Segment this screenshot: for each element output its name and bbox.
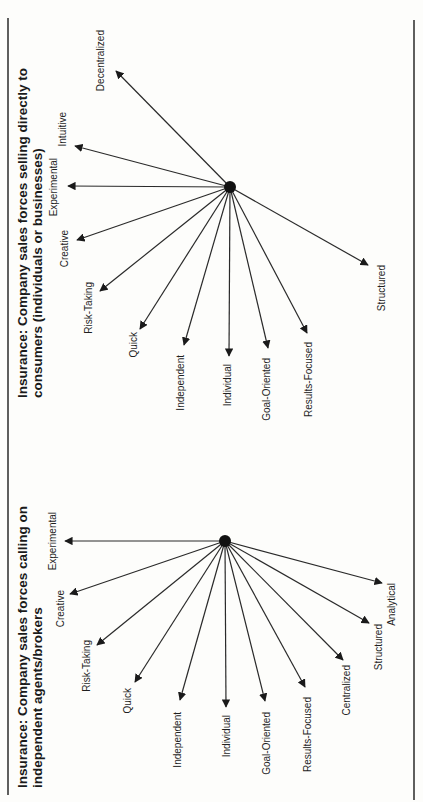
arrow-individual xyxy=(229,187,230,356)
agent-sales-diagram: Insurance: Company sales forces calling … xyxy=(15,506,397,788)
arrow-results-focused xyxy=(225,541,305,687)
arrow-risk-taking xyxy=(100,187,230,291)
arrow-creative xyxy=(70,541,225,594)
arrow-experimental xyxy=(68,186,230,187)
arrow-quick xyxy=(140,187,230,329)
diagram-title-line2: independent agents/brokers xyxy=(30,607,45,788)
direct-sales-diagram: Insurance: Company sales forces selling … xyxy=(15,30,387,421)
arrow-independent xyxy=(180,541,225,700)
arrow-risk-taking xyxy=(97,541,225,645)
diagram-canvas: Insurance: Company sales forces selling … xyxy=(0,0,423,802)
arrow-quick xyxy=(135,541,225,682)
trait-label: Individual xyxy=(222,364,233,406)
arrow-goal-oriented xyxy=(225,541,265,701)
trait-label: Results-Focused xyxy=(302,697,313,772)
trait-label: Risk-Taking xyxy=(83,282,94,334)
trait-label: Intuitive xyxy=(57,112,68,147)
trait-label: Results-Focused xyxy=(303,342,314,417)
trait-label: Centralized xyxy=(341,665,352,716)
arrow-creative xyxy=(77,187,230,240)
arrow-intuitive xyxy=(75,146,230,187)
trait-label: Experimental xyxy=(48,158,59,216)
arrow-independent xyxy=(184,187,230,345)
arrow-structured xyxy=(225,541,369,623)
arrow-goal-oriented xyxy=(230,187,268,348)
trait-label: Quick xyxy=(122,687,133,714)
arrow-centralized xyxy=(225,541,343,660)
trait-label: Individual xyxy=(221,715,232,757)
diagram-title-line1: Insurance: Company sales forces selling … xyxy=(15,68,30,398)
trait-label: Independent xyxy=(172,712,183,768)
hub-node xyxy=(224,181,236,193)
arrow-group: ExperimentalCreativeRisk-TakingQuickInde… xyxy=(47,512,397,775)
hub-node xyxy=(219,535,231,547)
trait-label: Goal-Oriented xyxy=(261,358,272,421)
trait-label: Independent xyxy=(175,355,186,411)
diagram-title-line2: consumers (individuals or businesses) xyxy=(30,148,45,398)
trait-label: Quick xyxy=(128,331,139,358)
trait-label: Decentralized xyxy=(95,30,106,91)
arrow-group: DecentralizedIntuitiveExperimentalCreati… xyxy=(48,30,387,421)
diagram-title-line1: Insurance: Company sales forces calling … xyxy=(15,506,30,788)
trait-label: Analytical xyxy=(386,583,397,626)
trait-label: Structured xyxy=(376,265,387,311)
arrow-analytical xyxy=(225,541,382,583)
trait-label: Structured xyxy=(373,624,384,670)
trait-label: Risk-Taking xyxy=(81,640,92,692)
trait-label: Creative xyxy=(59,230,70,268)
arrow-decentralized xyxy=(116,71,230,187)
trait-label: Experimental xyxy=(47,512,58,570)
arrow-individual xyxy=(225,541,226,707)
trait-label: Goal-Oriented xyxy=(261,712,272,775)
trait-label: Creative xyxy=(55,590,66,628)
